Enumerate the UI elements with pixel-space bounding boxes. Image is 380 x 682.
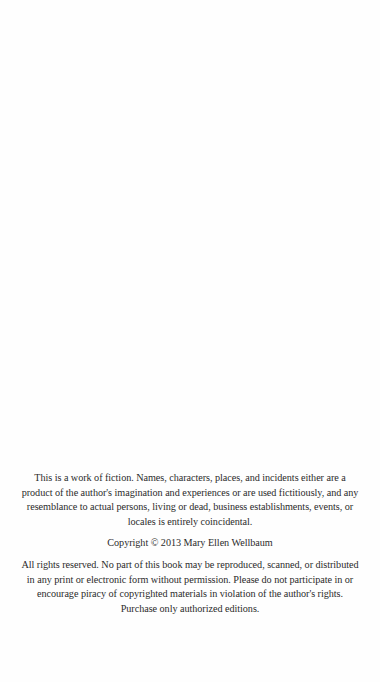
copyright-notice: Copyright © 2013 Mary Ellen Wellbaum [0, 536, 380, 551]
fiction-disclaimer-line: This is a work of fiction. Names, charac… [0, 471, 380, 486]
fiction-disclaimer-line: locales is entirely coincidental. [0, 515, 380, 530]
fiction-disclaimer-line: product of the author's imagination and … [0, 486, 380, 501]
rights-notice-line: All rights reserved. No part of this boo… [0, 558, 380, 573]
fiction-disclaimer: This is a work of fiction. Names, charac… [0, 471, 380, 529]
rights-notice-line: encourage piracy of copyrighted material… [0, 587, 380, 602]
rights-notice-line: Purchase only authorized editions. [0, 602, 380, 617]
rights-notice-line: in any print or electronic form without … [0, 573, 380, 588]
fiction-disclaimer-line: resemblance to actual persons, living or… [0, 500, 380, 515]
rights-reserved-notice: All rights reserved. No part of this boo… [0, 558, 380, 616]
book-page: This is a work of fiction. Names, charac… [0, 0, 380, 682]
copyright-text: Copyright © 2013 Mary Ellen Wellbaum [0, 536, 380, 551]
